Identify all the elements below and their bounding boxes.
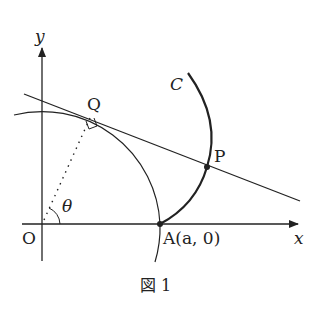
curve-c-label: C <box>170 76 183 93</box>
origin-label: O <box>22 230 36 247</box>
angle-theta-label: θ <box>62 198 72 215</box>
x-axis-label: x <box>294 230 304 247</box>
figure-caption: 図 1 <box>140 278 171 294</box>
point-p-dot <box>204 164 210 170</box>
point-q-label: Q <box>87 96 101 113</box>
diagram-canvas <box>0 0 324 313</box>
point-p-label: P <box>214 148 225 165</box>
y-axis-label: y <box>35 28 45 45</box>
point-a-label: A(a, 0) <box>163 230 220 247</box>
point-a-dot <box>157 221 163 227</box>
figure-1: y x O Q P C A(a, 0) θ 図 1 <box>0 0 324 313</box>
angle-theta-arc <box>49 208 60 224</box>
curve-c <box>160 73 212 224</box>
tangent-line <box>24 94 300 201</box>
